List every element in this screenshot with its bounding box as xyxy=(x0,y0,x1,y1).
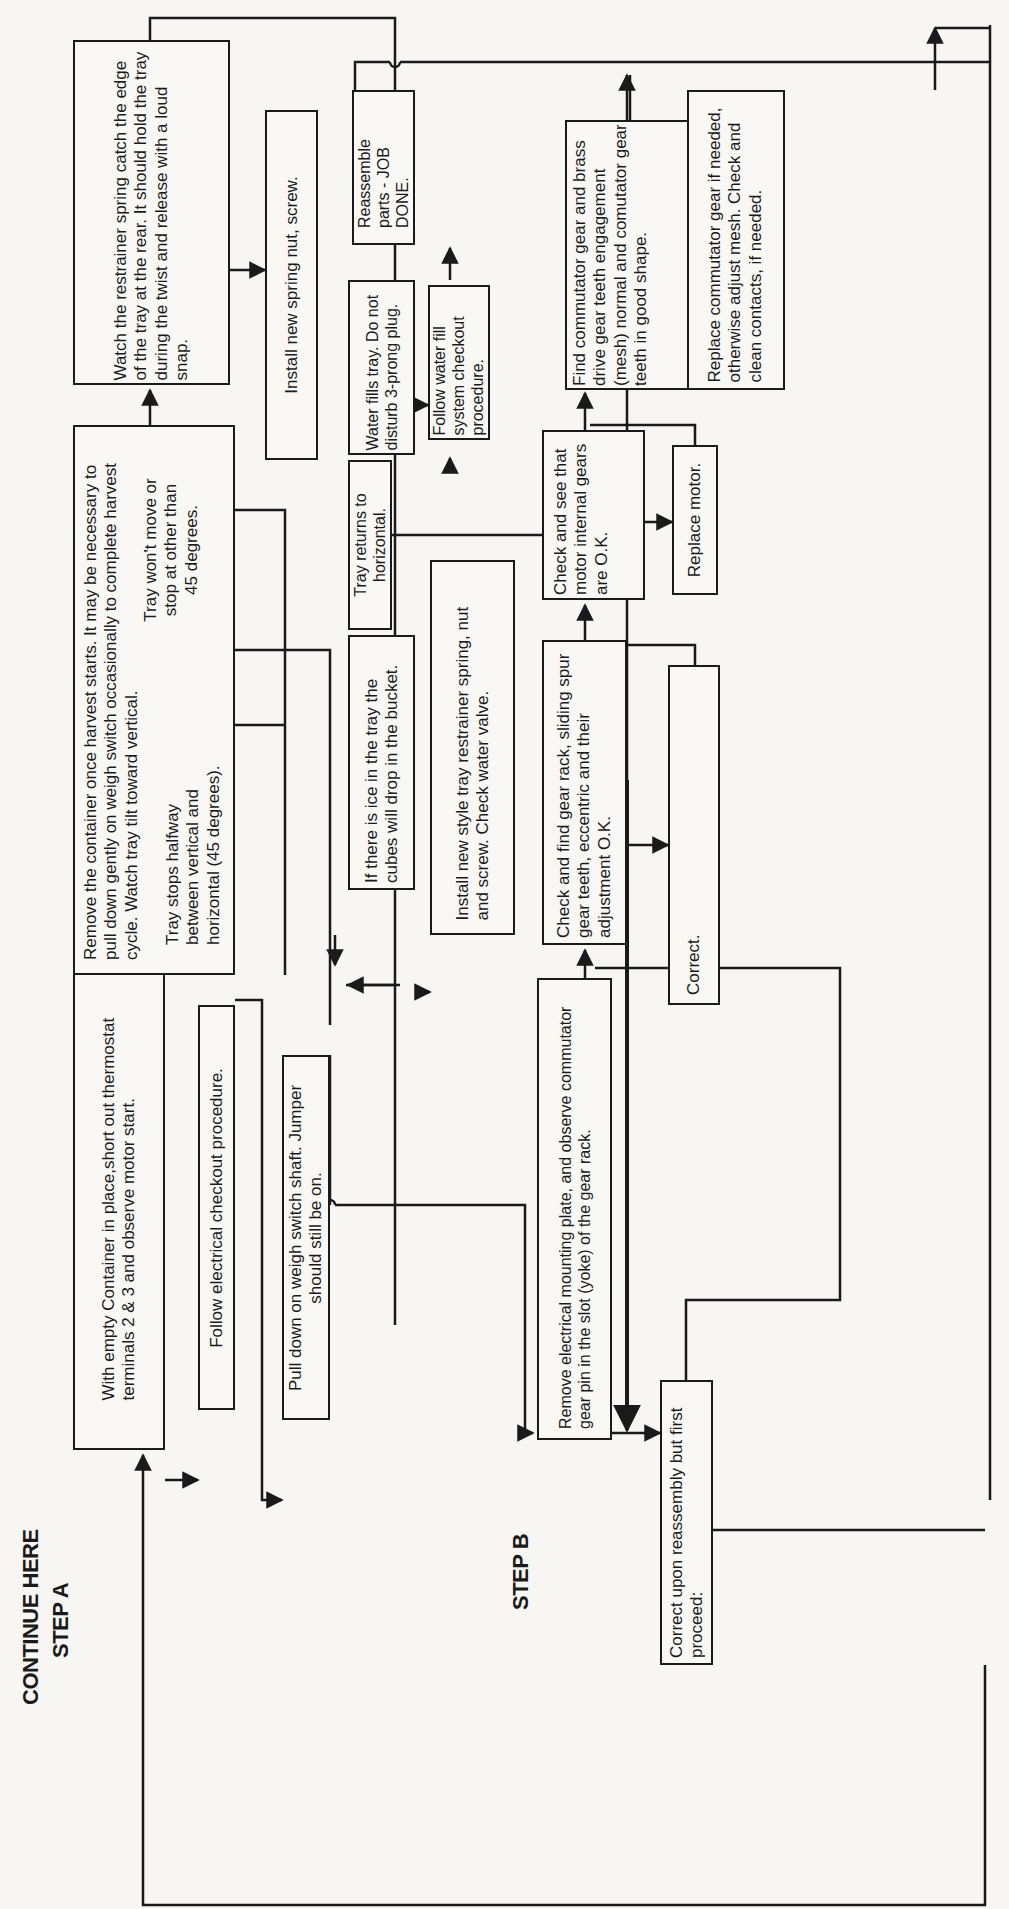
step-a-start-text: With empty Container in place,short out … xyxy=(99,1005,140,1400)
follow-water-fill-box: Follow water fill system checkout proced… xyxy=(428,285,490,440)
reassemble-box: Reassemble parts - JOB DONE. xyxy=(352,90,415,245)
check-gear-rack-text: Check and find gear rack, sliding spur g… xyxy=(554,648,615,938)
remove-container-box: Remove the container once harvest starts… xyxy=(73,425,235,975)
check-motor-gears-box: Check and see that motor internal gears … xyxy=(542,430,645,600)
install-new-style-box: Install new style tray restrainer spring… xyxy=(430,560,515,935)
tray-returns-box: Tray returns to horizontal. xyxy=(348,460,392,630)
water-fills-text: Water fills tray. Do not disturb 3-prong… xyxy=(362,285,400,450)
follow-electrical-box: Follow electrical checkout procedure. xyxy=(198,1005,235,1410)
follow-electrical-text: Follow electrical checkout procedure. xyxy=(206,1018,226,1398)
correct-upon-reassembly-text: Correct upon reassembly but first procee… xyxy=(666,1388,707,1658)
step-b-remove-plate-box: Remove electrical mounting plate, and ob… xyxy=(537,978,612,1440)
remove-container-text: Remove the container once harvest starts… xyxy=(81,440,142,960)
tray-returns-text: Tray returns to horizontal. xyxy=(351,465,389,625)
install-new-style-text: Install new style tray restrainer spring… xyxy=(452,575,493,920)
correct-text: Correct. xyxy=(684,675,704,995)
ice-in-tray-box: If there is ice in the tray the cubes wi… xyxy=(348,635,415,890)
pull-down-weigh-text: Pull down on weigh switch shaft. Jumper … xyxy=(286,1073,327,1403)
pull-down-weigh-box: Pull down on weigh switch shaft. Jumper … xyxy=(282,1055,330,1420)
ice-in-tray-text: If there is ice in the tray the cubes wi… xyxy=(361,643,402,883)
step-a-label: STEP A xyxy=(48,1583,74,1658)
follow-water-fill-text: Follow water fill system checkout proced… xyxy=(430,290,488,435)
water-fills-box: Water fills tray. Do not disturb 3-prong… xyxy=(348,280,415,455)
replace-motor-text: Replace motor. xyxy=(685,450,705,590)
watch-restrainer-text: Watch the restrainer spring catch the ed… xyxy=(111,45,193,380)
replace-commutator-text: Replace commutator gear if needed, other… xyxy=(705,98,766,383)
check-motor-gears-text: Check and see that motor internal gears … xyxy=(551,435,612,595)
step-a-start-box: With empty Container in place,short out … xyxy=(73,955,165,1450)
tray-stops-halfway-text: Tray stops halfway between vertical and … xyxy=(163,735,224,945)
step-b-remove-plate-text: Remove electrical mounting plate, and ob… xyxy=(555,989,593,1429)
step-b-label: STEP B xyxy=(508,1534,534,1610)
check-gear-rack-box: Check and find gear rack, sliding spur g… xyxy=(542,640,627,945)
find-commutator-text: Find commutator gear and brass drive gea… xyxy=(570,124,652,386)
watch-restrainer-box: Watch the restrainer spring catch the ed… xyxy=(73,40,230,385)
install-spring-nut-box: Install new spring nut, screw. xyxy=(265,110,318,460)
correct-box: Correct. xyxy=(668,665,720,1005)
install-spring-nut-text: Install new spring nut, screw. xyxy=(281,125,301,445)
tray-wont-move-text: Tray won't move or stop at other than 45… xyxy=(141,475,202,625)
reassemble-text: Reassemble parts - JOB DONE. xyxy=(355,108,413,228)
loopback-line xyxy=(143,1665,985,1905)
replace-commutator-box: Replace commutator gear if needed, other… xyxy=(687,90,785,390)
continue-here-label: CONTINUE HERE xyxy=(18,1529,44,1705)
correct-upon-reassembly-box: Correct upon reassembly but first procee… xyxy=(660,1380,713,1665)
replace-motor-box: Replace motor. xyxy=(672,445,718,595)
